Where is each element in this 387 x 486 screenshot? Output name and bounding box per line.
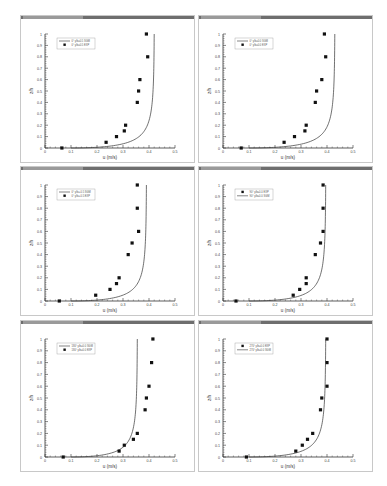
data-marker <box>325 385 328 388</box>
y-tick-label: 0 <box>40 300 42 304</box>
chart-panel-4: 00.10.20.30.40.50.60.70.80.9100.10.20.30… <box>198 166 373 316</box>
data-marker <box>118 450 121 453</box>
x-tick-label: 0.5 <box>351 459 356 463</box>
y-tick-label: 0.2 <box>215 432 220 436</box>
y-tick-label: 0.3 <box>37 265 42 269</box>
chart-panel-3: 00.10.20.30.40.50.60.70.80.9100.10.20.30… <box>20 166 195 316</box>
data-marker <box>314 253 317 256</box>
y-tick-label: 1 <box>218 338 220 342</box>
x-tick-label: 0.1 <box>69 150 74 154</box>
chart-svg: 00.10.20.30.40.50.60.70.80.9100.10.20.30… <box>21 16 196 164</box>
data-marker <box>322 207 325 210</box>
legend-label: 90° y/b=0.0 SGM <box>250 194 270 198</box>
x-tick-label: 0.3 <box>121 150 126 154</box>
data-marker <box>136 183 139 186</box>
y-tick-label: 0.2 <box>215 124 220 128</box>
data-marker <box>150 361 153 364</box>
data-marker <box>292 294 295 297</box>
y-tick-label: 0.8 <box>37 207 42 211</box>
model-curve <box>249 34 335 148</box>
y-tick-label: 0.4 <box>215 101 220 105</box>
chart-svg: 00.10.20.30.40.50.60.70.80.9100.10.20.30… <box>199 16 374 164</box>
data-marker <box>94 294 97 297</box>
chart-panel-1: 00.10.20.30.40.50.60.70.80.9100.10.20.30… <box>20 15 195 163</box>
y-tick-label: 0.9 <box>215 44 220 48</box>
model-curve <box>71 185 146 301</box>
y-tick-label: 0 <box>218 300 220 304</box>
legend-marker-icon <box>63 44 65 46</box>
x-tick-label: 0.1 <box>69 303 74 307</box>
y-tick-label: 0.2 <box>37 124 42 128</box>
x-tick-label: 0.4 <box>325 303 330 307</box>
x-tick-label: 0 <box>44 459 46 463</box>
model-curve <box>249 185 326 301</box>
x-tick-label: 0 <box>44 150 46 154</box>
data-marker <box>151 337 154 340</box>
x-tick-label: 0.3 <box>121 303 126 307</box>
y-tick-label: 0.3 <box>215 265 220 269</box>
y-axis-label: z/h <box>207 87 212 94</box>
data-marker <box>298 288 301 291</box>
y-tick-label: 0.4 <box>37 253 42 257</box>
chart-svg: 00.10.20.30.40.50.60.70.80.9100.10.20.30… <box>21 321 196 473</box>
y-tick-label: 0.7 <box>37 67 42 71</box>
y-tick-label: 0.4 <box>37 408 42 412</box>
legend-marker-icon <box>63 349 65 351</box>
data-marker <box>145 32 148 35</box>
x-tick-label: 0.3 <box>299 150 304 154</box>
x-tick-label: 0.2 <box>273 150 278 154</box>
data-marker <box>294 450 297 453</box>
x-tick-label: 0.2 <box>95 459 100 463</box>
y-tick-label: 0.7 <box>215 218 220 222</box>
y-tick-label: 1 <box>218 184 220 188</box>
x-tick-label: 0 <box>222 459 224 463</box>
data-marker <box>132 438 135 441</box>
y-tick-label: 1 <box>218 33 220 37</box>
data-marker <box>127 253 130 256</box>
x-tick-label: 0 <box>222 150 224 154</box>
data-marker <box>105 141 108 144</box>
chart-svg: 00.10.20.30.40.50.60.70.80.9100.10.20.30… <box>199 321 374 473</box>
x-tick-label: 0.4 <box>147 150 152 154</box>
data-marker <box>118 276 121 279</box>
x-axis-label: u (m/s) <box>281 155 296 160</box>
legend-label: 0° y/b=0.5 SGM <box>72 39 90 43</box>
legend-marker-icon <box>63 195 65 197</box>
x-tick-label: 0.5 <box>173 303 178 307</box>
y-tick-label: 0 <box>40 456 42 460</box>
legend-label: 180° y/b=0.0 SGM <box>72 344 93 348</box>
y-tick-label: 0.9 <box>37 44 42 48</box>
y-tick-label: 1 <box>40 338 42 342</box>
y-tick-label: 0.1 <box>37 288 42 292</box>
chart-panel-2: 00.10.20.30.40.50.60.70.80.9100.10.20.30… <box>198 15 373 163</box>
y-tick-label: 0.6 <box>215 385 220 389</box>
y-tick-label: 0.8 <box>215 55 220 59</box>
legend-label: 90° y/b=0.0 EXP <box>250 190 269 194</box>
y-tick-label: 0.4 <box>37 101 42 105</box>
data-marker <box>283 141 286 144</box>
y-tick-label: 0.9 <box>215 195 220 199</box>
data-marker <box>315 89 318 92</box>
x-axis-label: u (m/s) <box>103 155 118 160</box>
data-marker <box>136 207 139 210</box>
y-tick-label: 0.8 <box>215 207 220 211</box>
chart-panel-6: 00.10.20.30.40.50.60.70.80.9100.10.20.30… <box>198 320 373 472</box>
chart-panel-5: 00.10.20.30.40.50.60.70.80.9100.10.20.30… <box>20 320 195 472</box>
data-marker <box>305 282 308 285</box>
y-tick-label: 0.9 <box>215 349 220 353</box>
data-marker <box>234 299 237 302</box>
y-tick-label: 0.6 <box>37 78 42 82</box>
y-tick-label: 0.2 <box>215 276 220 280</box>
legend-marker-icon <box>241 44 243 46</box>
x-tick-label: 0.1 <box>247 150 252 154</box>
data-marker <box>137 230 140 233</box>
y-axis-label: z/h <box>207 394 212 401</box>
y-tick-label: 0.7 <box>215 67 220 71</box>
y-tick-label: 0.5 <box>37 90 42 94</box>
y-tick-label: 0.5 <box>215 397 220 401</box>
data-marker <box>115 135 118 138</box>
data-marker <box>303 129 306 132</box>
data-marker <box>320 78 323 81</box>
legend-marker-icon <box>241 345 243 347</box>
y-tick-label: 0.1 <box>37 135 42 139</box>
